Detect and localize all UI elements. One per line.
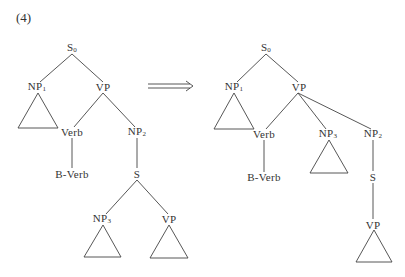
node-s0: S0 xyxy=(67,42,77,54)
vp-triangle-right xyxy=(356,230,392,262)
node-np3: NP3 xyxy=(319,128,337,140)
vp-triangle xyxy=(150,225,188,258)
np1-triangle xyxy=(18,93,58,128)
node-np3: NP3 xyxy=(93,213,111,225)
node-np2: NP2 xyxy=(128,126,146,138)
np1-triangle-right xyxy=(214,93,254,129)
node-np2: NP2 xyxy=(364,128,382,140)
node-s0: S0 xyxy=(261,42,271,54)
node-s: S xyxy=(134,169,140,180)
node-vp: VP xyxy=(292,82,307,93)
node-vp2: VP xyxy=(162,214,177,225)
node-vp2: VP xyxy=(366,220,381,231)
node-bverb: B-Verb xyxy=(55,169,89,180)
node-np1: NP1 xyxy=(28,81,46,93)
node-np1: NP1 xyxy=(225,81,243,93)
tree-lines xyxy=(0,0,405,277)
np3-triangle xyxy=(84,225,121,257)
node-vp: VP xyxy=(96,82,111,93)
node-verb: Verb xyxy=(61,127,83,138)
node-bverb: B-Verb xyxy=(247,172,281,183)
node-verb: Verb xyxy=(253,129,275,140)
node-s: S xyxy=(370,172,376,183)
np3-triangle-right xyxy=(310,140,348,173)
